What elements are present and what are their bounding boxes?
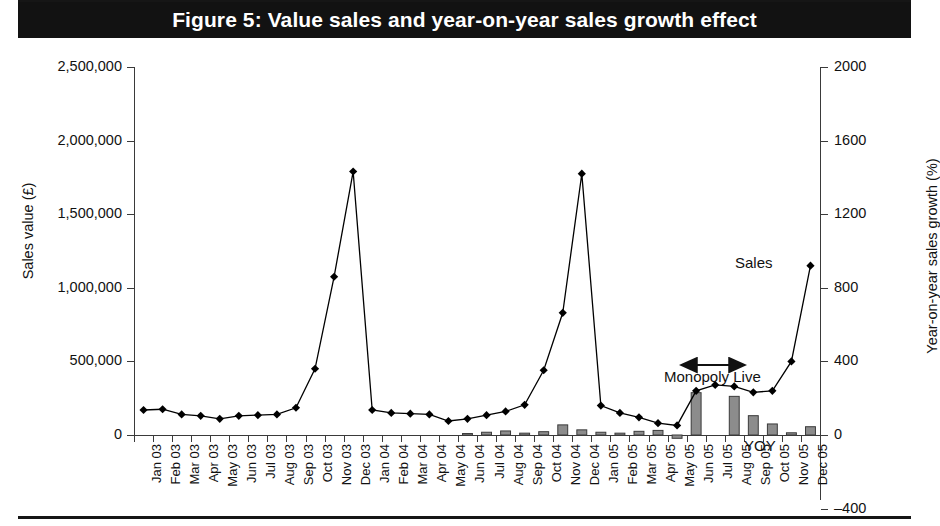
bottom-rule <box>18 516 911 519</box>
y-tick-left <box>127 288 134 289</box>
y-axis-left-title: Sales value (£) <box>20 141 36 321</box>
marker-sales <box>349 167 357 175</box>
x-tick <box>668 436 669 442</box>
x-tick <box>439 436 440 442</box>
y-tick-label-right: 400 <box>834 353 858 368</box>
marker-sales <box>254 411 262 419</box>
x-tick <box>325 436 326 442</box>
x-tick <box>687 436 688 442</box>
x-tick <box>534 436 535 442</box>
marker-sales <box>692 387 700 395</box>
marker-sales <box>158 405 166 413</box>
x-tick-label: Jul 04 <box>492 444 507 479</box>
y-tick-label-right: 1600 <box>834 133 866 148</box>
y-tick-right <box>821 288 828 289</box>
marker-sales <box>578 170 586 178</box>
x-tick-label: Apr 04 <box>434 444 449 482</box>
x-tick <box>572 436 573 442</box>
marker-sales <box>197 412 205 420</box>
x-tick-label: Feb 04 <box>396 444 411 484</box>
x-tick <box>420 436 421 442</box>
bar-yoy <box>558 425 568 435</box>
x-tick <box>782 436 783 442</box>
x-tick <box>153 436 154 442</box>
x-tick-label: Nov 05 <box>796 444 811 485</box>
y-tick-label-left: 2,500,000 <box>12 59 122 74</box>
x-tick <box>267 436 268 442</box>
y-tick-label-right: –400 <box>834 501 866 516</box>
x-tick-label: Mar 05 <box>644 444 659 484</box>
y-tick-left <box>127 361 134 362</box>
x-tick-label: May 03 <box>225 444 240 487</box>
bar-yoy <box>729 396 739 435</box>
y-tick-right <box>821 361 828 362</box>
marker-sales <box>178 410 186 418</box>
x-tick <box>706 436 707 442</box>
x-tick <box>229 436 230 442</box>
y-tick-label-right: 2000 <box>834 59 866 74</box>
x-tick-label: Sep 03 <box>301 444 316 485</box>
x-tick <box>515 436 516 442</box>
x-tick-label: Dec 05 <box>815 444 830 485</box>
x-tick-label: Jan 03 <box>149 444 164 483</box>
x-tick <box>363 436 364 442</box>
marker-sales <box>749 388 757 396</box>
x-tick <box>306 436 307 442</box>
marker-sales <box>406 410 414 418</box>
x-tick <box>820 436 821 442</box>
marker-sales <box>768 387 776 395</box>
x-tick <box>610 436 611 442</box>
x-tick-label: Mar 03 <box>187 444 202 484</box>
bar-yoy <box>806 427 816 435</box>
x-tick-label: Oct 04 <box>549 444 564 482</box>
marker-sales <box>635 413 643 421</box>
marker-sales <box>521 401 529 409</box>
marker-sales <box>330 273 338 281</box>
bar-yoy <box>691 393 701 435</box>
marker-sales <box>235 412 243 420</box>
marker-sales <box>673 421 681 429</box>
y-tick-left <box>127 435 134 436</box>
marker-sales <box>616 409 624 417</box>
x-tick <box>458 436 459 442</box>
marker-sales <box>654 419 662 427</box>
x-tick-label: Jul 03 <box>263 444 278 479</box>
x-tick <box>210 436 211 442</box>
marker-sales <box>139 406 147 414</box>
x-tick-label: Feb 03 <box>168 444 183 484</box>
y-tick-label-left: 500,000 <box>12 353 122 368</box>
y-axis-right-title: Year-on-year sales growth (%) <box>924 116 940 396</box>
marker-sales <box>311 365 319 373</box>
marker-sales <box>216 415 224 423</box>
x-tick-label: Jun 03 <box>244 444 259 483</box>
x-tick-label: Aug 03 <box>282 444 297 485</box>
x-tick-label: Oct 05 <box>777 444 792 482</box>
x-tick-label: Jan 05 <box>606 444 621 483</box>
x-tick-label: Apr 03 <box>206 444 221 482</box>
x-tick-label: Dec 04 <box>587 444 602 485</box>
marker-sales <box>387 409 395 417</box>
x-tick-label: Jan 04 <box>377 444 392 483</box>
x-tick-label: Oct 03 <box>320 444 335 482</box>
x-tick-label: Feb 05 <box>625 444 640 484</box>
y-tick-right <box>821 67 828 68</box>
x-tick <box>553 436 554 442</box>
y-tick-left <box>127 141 134 142</box>
bar-yoy <box>767 424 777 435</box>
marker-sales <box>444 417 452 425</box>
x-tick-label: Sep 04 <box>530 444 545 485</box>
marker-sales <box>482 411 490 419</box>
marker-sales <box>273 410 281 418</box>
x-tick-label: Mar 04 <box>415 444 430 484</box>
x-tick-label: Dec 03 <box>358 444 373 485</box>
marker-sales <box>463 415 471 423</box>
chart-figure: 0500,0001,000,0001,500,0002,000,0002,500… <box>0 38 929 526</box>
series-label-yoy: YOY <box>744 437 776 454</box>
x-tick-label: Nov 03 <box>339 444 354 485</box>
x-tick <box>629 436 630 442</box>
marker-sales <box>292 404 300 412</box>
x-tick <box>134 436 135 442</box>
series-label-sales: Sales <box>735 254 773 271</box>
marker-sales <box>501 407 509 415</box>
marker-sales <box>597 401 605 409</box>
